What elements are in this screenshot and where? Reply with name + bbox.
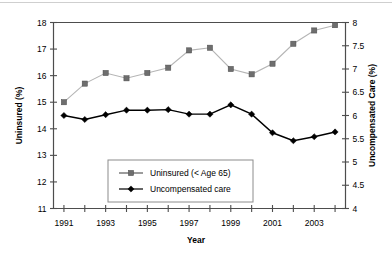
- data-point-marker: [249, 72, 254, 77]
- data-point-marker: [290, 138, 296, 144]
- legend-box: [108, 160, 253, 202]
- y-tick-label-right: 6: [353, 111, 358, 121]
- data-point-marker: [312, 28, 317, 33]
- chart-legend: Uninsured (< Age 65)Uncompensated care: [108, 160, 253, 202]
- y-axis-title-left: Uninsured (%): [14, 87, 24, 145]
- data-point-marker: [207, 45, 212, 50]
- x-axis-title: Year: [187, 235, 206, 245]
- y-axis-title-right: Uncompensated Care (%): [367, 64, 377, 167]
- x-tick-label: 1995: [138, 218, 157, 228]
- y-tick-label-right: 6.5: [353, 87, 365, 97]
- data-point-marker: [61, 112, 67, 118]
- series-line-1: [64, 25, 335, 102]
- data-point-marker: [103, 70, 108, 75]
- y-tick-label-right: 4: [353, 204, 358, 214]
- data-point-marker: [124, 76, 129, 81]
- legend-label-1: Uninsured (< Age 65): [150, 168, 231, 178]
- y-tick-label-right: 5.5: [353, 134, 365, 144]
- legend-marker-square: [128, 170, 133, 175]
- data-point-marker: [61, 100, 66, 105]
- x-tick-label: 1991: [54, 218, 73, 228]
- data-point-marker: [103, 112, 109, 118]
- data-point-marker: [123, 107, 129, 113]
- x-tick-label: 1993: [96, 218, 115, 228]
- data-point-marker: [144, 107, 150, 113]
- y-tick-label-left: 16: [37, 71, 47, 81]
- scan-artifact-line: [0, 2, 392, 3]
- line-chart: 111213141516171844.555.566.577.581991199…: [0, 0, 392, 261]
- data-point-marker: [82, 116, 88, 122]
- y-tick-label-right: 7: [353, 64, 358, 74]
- x-tick-label: 2003: [305, 218, 324, 228]
- y-tick-label-right: 8: [353, 18, 358, 28]
- x-tick-label: 1997: [180, 218, 199, 228]
- data-point-marker: [186, 111, 192, 117]
- chart-container: 111213141516171844.555.566.577.581991199…: [0, 0, 392, 261]
- y-tick-label-right: 5: [353, 157, 358, 167]
- data-point-marker: [332, 23, 337, 28]
- x-tick-label: 2001: [263, 218, 282, 228]
- data-point-marker: [165, 107, 171, 113]
- y-tick-label-left: 13: [37, 150, 47, 160]
- series-line-2: [64, 105, 335, 141]
- data-point-marker: [82, 81, 87, 86]
- x-tick-label: 1999: [221, 218, 240, 228]
- y-tick-label-left: 12: [37, 177, 47, 187]
- data-point-marker: [311, 134, 317, 140]
- y-tick-label-left: 18: [37, 18, 47, 28]
- data-point-marker: [332, 129, 338, 135]
- y-tick-label-left: 15: [37, 97, 47, 107]
- data-point-marker: [166, 65, 171, 70]
- y-tick-label-left: 11: [38, 204, 47, 214]
- data-point-marker: [145, 70, 150, 75]
- y-tick-label-right: 4.5: [353, 180, 365, 190]
- data-point-marker: [270, 61, 275, 66]
- data-point-marker: [228, 102, 234, 108]
- y-tick-label-right: 7.5: [353, 41, 365, 51]
- y-tick-label-left: 17: [37, 44, 47, 54]
- data-point-marker: [291, 41, 296, 46]
- data-point-marker: [207, 111, 213, 117]
- data-point-marker: [186, 48, 191, 53]
- legend-label-2: Uncompensated care: [150, 184, 231, 194]
- data-point-marker: [228, 66, 233, 71]
- y-tick-label-left: 14: [37, 124, 47, 134]
